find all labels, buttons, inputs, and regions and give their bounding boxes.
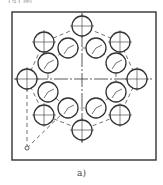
bolt-hole-pattern-drawing	[0, 0, 163, 185]
figure-caption: a)	[0, 168, 163, 178]
origin-point-icon	[25, 146, 29, 150]
